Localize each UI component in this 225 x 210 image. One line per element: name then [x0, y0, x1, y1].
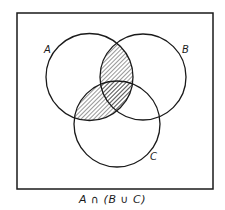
shaded-region-a-intersect-b-union-c — [74, 34, 186, 167]
set-a-label: A — [44, 44, 51, 55]
venn-diagram — [0, 0, 225, 210]
diagram-caption: A ∩ (B ∪ C) — [0, 193, 225, 206]
set-b-label: B — [182, 44, 189, 55]
set-c-label: C — [150, 151, 157, 162]
